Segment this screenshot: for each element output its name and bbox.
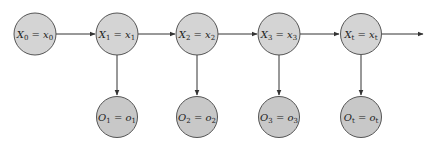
node-x1: X1 = x1 (96, 13, 138, 55)
node-x0: X0 = x0 (14, 13, 56, 55)
node-x3: X3 = x3 (258, 13, 300, 55)
node-o2: O2 = o2 (177, 97, 218, 138)
hmm-diagram: X0 = x0 X1 = x1 X2 = x2 X3 = x3 Xt = xt … (0, 0, 439, 142)
node-o1: O1 = o1 (97, 97, 138, 138)
node-xt: Xt = xt (341, 14, 382, 55)
node-o3: O3 = o3 (259, 97, 300, 138)
node-ot: Ot = ot (341, 97, 382, 138)
node-x2: X2 = x2 (176, 13, 218, 55)
